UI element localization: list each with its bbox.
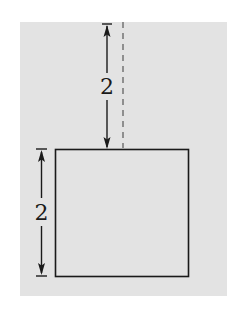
side-dimension-label: 2	[35, 200, 49, 225]
diagram: 2 2	[0, 0, 237, 318]
diagram-canvas: 2 2	[0, 0, 237, 318]
gap-dimension-label: 2	[100, 74, 114, 99]
background-panel	[20, 22, 227, 296]
